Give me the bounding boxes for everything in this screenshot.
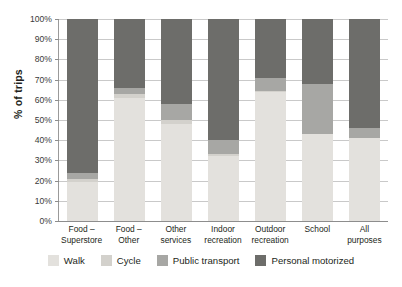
x-axis-label: Indoorrecreation xyxy=(199,224,246,245)
stacked-bar[interactable] xyxy=(114,19,144,221)
legend-label: Public transport xyxy=(173,255,240,266)
bar-segment-public-transport[interactable] xyxy=(114,88,144,94)
legend-swatch-icon xyxy=(255,255,266,266)
y-axis-tick-label: 60% xyxy=(35,95,52,105)
stacked-bar[interactable] xyxy=(67,19,97,221)
y-axis-tick-label: 40% xyxy=(35,135,52,145)
y-axis-tick-label: 20% xyxy=(35,176,52,186)
bar-segment-personal-motorized[interactable] xyxy=(208,19,238,140)
x-axis-label: Food –Other xyxy=(105,224,152,245)
x-axis-label: Outdoorrecreation xyxy=(247,224,294,245)
bar-segment-cycle[interactable] xyxy=(67,179,97,182)
legend-swatch-icon xyxy=(157,255,168,266)
bar-segment-walk[interactable] xyxy=(208,156,238,221)
stacked-bar[interactable] xyxy=(255,19,285,221)
bar-segment-walk[interactable] xyxy=(349,138,379,221)
bar-segment-personal-motorized[interactable] xyxy=(349,19,379,128)
stacked-bar[interactable] xyxy=(349,19,379,221)
bar-slot xyxy=(153,19,200,221)
x-axis-label: Otherservices xyxy=(152,224,199,245)
stacked-bar-chart: % of trips 100%90%80%70%60%50%40%30%20%1… xyxy=(0,0,402,287)
x-axis-label: School xyxy=(294,224,341,245)
y-axis-tick-label: 90% xyxy=(35,34,52,44)
bar-segment-walk[interactable] xyxy=(161,124,191,221)
plot-area: 100%90%80%70%60%50%40%30%20%10%0% xyxy=(58,19,388,221)
bars-layer xyxy=(59,19,388,221)
bar-segment-walk[interactable] xyxy=(255,92,285,221)
bar-slot xyxy=(247,19,294,221)
stacked-bar[interactable] xyxy=(208,19,238,221)
bar-segment-walk[interactable] xyxy=(114,98,144,221)
legend-label: Cycle xyxy=(117,255,141,266)
x-axis-label: Allpurposes xyxy=(341,224,388,245)
bar-slot xyxy=(294,19,341,221)
bar-segment-public-transport[interactable] xyxy=(302,84,332,135)
bar-slot xyxy=(106,19,153,221)
y-axis-tick-label: 0% xyxy=(40,216,52,226)
bar-segment-personal-motorized[interactable] xyxy=(67,19,97,173)
y-axis-tick-label: 80% xyxy=(35,54,52,64)
bar-segment-cycle[interactable] xyxy=(208,154,238,156)
stacked-bar[interactable] xyxy=(302,19,332,221)
bar-segment-public-transport[interactable] xyxy=(255,78,285,91)
bar-slot xyxy=(200,19,247,221)
legend-swatch-icon xyxy=(48,255,59,266)
bar-slot xyxy=(341,19,388,221)
y-axis-tick-label: 30% xyxy=(35,155,52,165)
y-axis-tick-label: 70% xyxy=(35,75,52,85)
bar-segment-public-transport[interactable] xyxy=(161,104,191,120)
y-axis-tick-label: 50% xyxy=(35,115,52,125)
x-axis-labels: Food –SuperstoreFood –OtherOtherservices… xyxy=(58,224,388,245)
bar-segment-public-transport[interactable] xyxy=(349,128,379,138)
bar-segment-walk[interactable] xyxy=(302,134,332,221)
legend-label: Walk xyxy=(64,255,85,266)
legend-label: Personal motorized xyxy=(271,255,354,266)
stacked-bar[interactable] xyxy=(161,19,191,221)
gridline xyxy=(59,221,388,222)
x-axis-label: Food –Superstore xyxy=(58,224,105,245)
bar-segment-public-transport[interactable] xyxy=(67,173,97,179)
bar-slot xyxy=(59,19,106,221)
bar-segment-cycle[interactable] xyxy=(161,120,191,124)
plot-area-wrapper: 100%90%80%70%60%50%40%30%20%10%0% xyxy=(58,19,388,221)
bar-segment-walk[interactable] xyxy=(67,182,97,221)
y-axis-tick-label: 10% xyxy=(35,196,52,206)
chart-legend: WalkCyclePublic transportPersonal motori… xyxy=(0,255,402,266)
bar-segment-personal-motorized[interactable] xyxy=(161,19,191,104)
bar-segment-personal-motorized[interactable] xyxy=(255,19,285,78)
legend-item[interactable]: Walk xyxy=(48,255,85,266)
legend-item[interactable]: Public transport xyxy=(157,255,240,266)
bar-segment-public-transport[interactable] xyxy=(208,140,238,154)
bar-segment-cycle[interactable] xyxy=(114,94,144,98)
bar-segment-cycle[interactable] xyxy=(255,91,285,92)
y-axis-tick-label: 100% xyxy=(30,14,52,24)
y-axis-tick xyxy=(55,221,59,222)
bar-segment-personal-motorized[interactable] xyxy=(114,19,144,88)
bar-segment-personal-motorized[interactable] xyxy=(302,19,332,84)
legend-swatch-icon xyxy=(101,255,112,266)
legend-item[interactable]: Personal motorized xyxy=(255,255,354,266)
legend-item[interactable]: Cycle xyxy=(101,255,141,266)
y-axis-title: % of trips xyxy=(12,44,24,144)
